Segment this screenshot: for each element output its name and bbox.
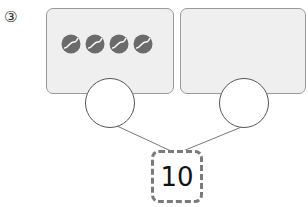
right-answer-circle[interactable] <box>219 78 269 128</box>
total-box: 10 <box>151 150 203 203</box>
left-answer-circle[interactable] <box>85 78 135 128</box>
